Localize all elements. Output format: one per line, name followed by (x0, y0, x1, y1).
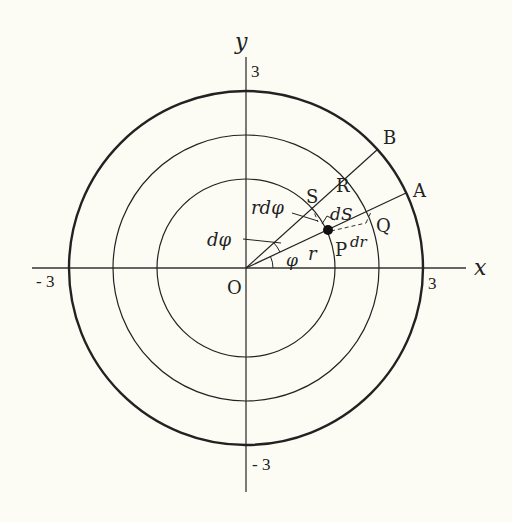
label-dphi: dφ (207, 229, 232, 250)
axes (32, 57, 466, 492)
label-r: r (308, 243, 318, 264)
polar-area-element-diagram: y x O 3 3 - 3 - 3 B R A S Q P dS dr r φ … (0, 0, 512, 522)
label-rdphi: rdφ (251, 197, 284, 218)
label-S: S (306, 186, 318, 207)
label-phi: φ (286, 250, 298, 270)
label-B: B (383, 127, 396, 148)
y-axis-label: y (234, 29, 248, 54)
point-P-dot (323, 225, 333, 235)
x-neg-tick: - 3 (36, 272, 54, 291)
phi-angle-arc (271, 257, 274, 268)
x-axis-label: x (474, 255, 487, 280)
label-dS: dS (330, 204, 353, 224)
y-pos-tick: 3 (251, 62, 260, 81)
dphi-angle-arc (274, 243, 280, 253)
label-dr: dr (350, 233, 368, 251)
y-neg-tick: - 3 (252, 455, 270, 474)
label-A: A (412, 180, 427, 201)
label-Q: Q (376, 215, 391, 236)
x-pos-tick: 3 (428, 274, 437, 293)
label-P: P (335, 239, 347, 260)
label-R: R (336, 175, 350, 196)
dashed-line-dr (331, 223, 366, 231)
origin-label: O (227, 277, 242, 298)
